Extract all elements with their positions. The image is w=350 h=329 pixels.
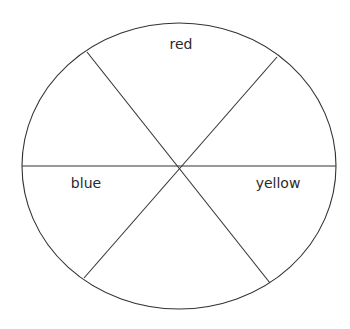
color-wheel-diagram: red blue yellow	[0, 0, 350, 329]
segment-label-yellow: yellow	[256, 175, 301, 191]
segment-label-red: red	[170, 36, 193, 52]
segment-label-blue: blue	[71, 175, 101, 191]
